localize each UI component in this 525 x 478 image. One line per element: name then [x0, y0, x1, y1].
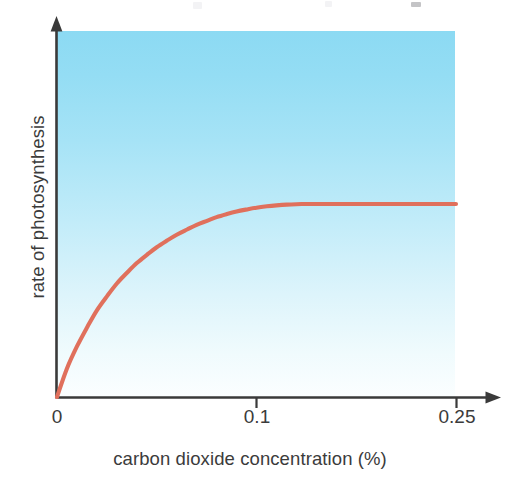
x-tick-label-0: 0	[52, 406, 63, 428]
photosynthesis-rate-curve	[57, 204, 456, 397]
x-axis	[57, 391, 502, 403]
y-axis-label: rate of photosynthesis	[27, 77, 49, 337]
y-axis	[51, 16, 63, 399]
x-tick-label-0-1: 0.1	[244, 406, 270, 428]
y-axis-arrow-icon	[51, 16, 63, 32]
chart-figure: rate of photosynthesis carbon dioxide co…	[0, 0, 525, 478]
x-axis-arrow-icon	[486, 391, 502, 403]
x-axis-ticks	[257, 398, 457, 409]
x-axis-label: carbon dioxide concentration (%)	[0, 448, 500, 470]
x-tick-label-0-25: 0.25	[439, 406, 476, 428]
